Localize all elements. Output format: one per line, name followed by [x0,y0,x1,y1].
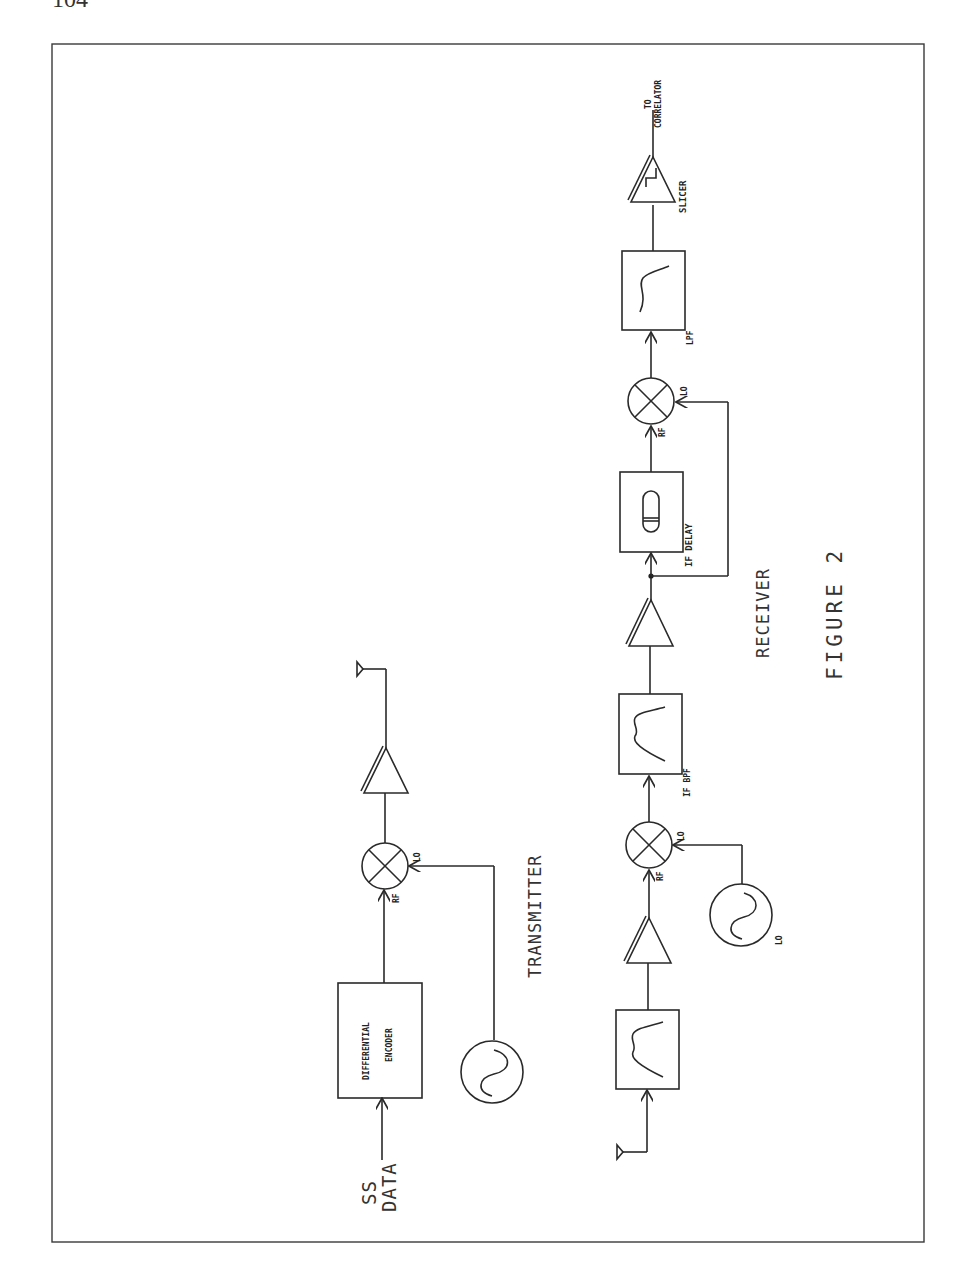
differential-encoder-block [338,983,422,1098]
receiver-label: RECEIVER [753,568,773,658]
slicer-icon [628,155,675,202]
if-amplifier-icon [626,598,673,646]
rx-mixer1-rf-label: RF [656,871,665,881]
transmitter-amplifier-icon [361,746,408,793]
transmitter-oscillator-icon [461,1041,523,1103]
receiver-mixer-1-icon [626,822,672,868]
transmitter-mixer-icon [362,843,408,889]
tx-mixer-lo-label: LO [413,852,422,862]
rx-oscillator-lo-label: LO [775,935,784,945]
output-label-line1: TO [644,99,653,109]
receiver-local-oscillator-icon [710,884,772,946]
ss-data-label-line1: SS [358,1180,380,1205]
receiver-lna-icon [624,916,671,963]
figure-title: FIGURE 2 [823,547,847,680]
receiver-chain [616,110,772,1159]
receiver-mixer-2-icon [628,378,674,424]
if-delay-label: IF DELAY [684,523,694,567]
tx-mixer-rf-label: RF [392,893,401,903]
figure-frame [52,44,924,1242]
encoder-label-line1: DIFFERENTIAL [362,1022,371,1080]
transmitter-chain [338,662,523,1160]
delay-line-icon [643,491,659,532]
if-bandpass-filter-block [619,694,682,774]
ss-data-label-line2: DATA [378,1162,400,1212]
if-bpf-label: IF BPF [683,768,692,797]
block-diagram: TRANSMITTER RECEIVER FIGURE 2 SS DATA DI… [0,0,969,1286]
slicer-label: SLICER [678,180,688,213]
rf-bandpass-filter-block [616,1010,679,1089]
receive-antenna-icon [617,1145,623,1159]
lpf-label: LPF [686,330,695,345]
output-label-line2: CORRELATOR [654,80,663,128]
if-delay-block [620,472,683,552]
low-pass-filter-block [622,251,685,330]
rx-mixer2-rf-label: RF [658,427,667,437]
transmitter-label: TRANSMITTER [525,854,545,978]
encoder-label-line2: ENCODER [385,1028,394,1062]
transmit-antenna-icon [357,662,363,676]
rx-mixer1-lo-label: LO [677,831,686,841]
rx-mixer2-lo-label: LO [680,386,689,396]
